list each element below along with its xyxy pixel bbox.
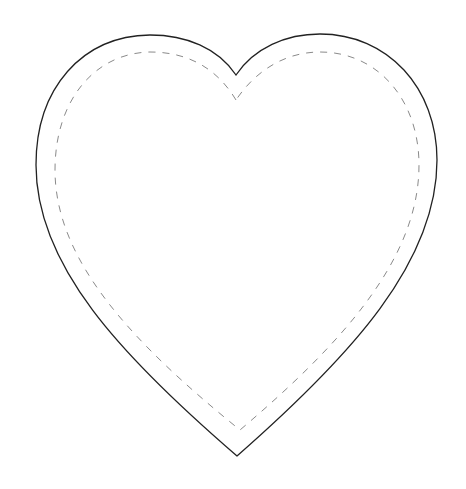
heart-stitch-line xyxy=(55,52,419,430)
heart-template: Heart outline template xyxy=(0,0,466,489)
heart-drawing xyxy=(0,0,466,489)
heart-outline xyxy=(36,34,437,456)
